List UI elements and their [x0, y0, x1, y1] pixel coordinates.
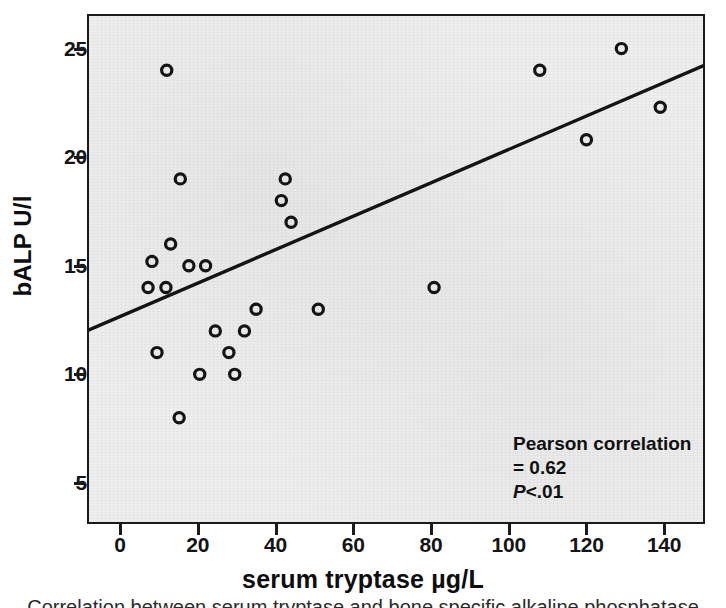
data-point	[230, 369, 240, 379]
statistics-annotation: Pearson correlation = 0.62 P<.01	[513, 432, 703, 503]
y-tick-mark	[74, 265, 85, 268]
p-value-number: <.01	[526, 481, 564, 502]
data-point	[581, 135, 591, 145]
x-axis-title: serum tryptase µg/L	[0, 565, 726, 594]
data-point	[655, 102, 665, 112]
data-point	[152, 348, 162, 358]
data-point	[429, 282, 439, 292]
x-tick-label: 140	[629, 534, 699, 555]
y-tick-mark	[74, 482, 85, 485]
plot-panel: Pearson correlation = 0.62 P<.01	[87, 14, 705, 524]
data-point	[147, 256, 157, 266]
data-point	[280, 174, 290, 184]
x-tick-label: 0	[85, 534, 155, 555]
p-symbol: P	[513, 481, 526, 502]
data-points	[143, 43, 665, 422]
x-tick-label: 40	[241, 534, 311, 555]
p-value-text: P<.01	[513, 480, 703, 504]
fit-line	[89, 66, 703, 330]
data-point	[251, 304, 261, 314]
y-axis-title: bALP U/l	[9, 161, 37, 331]
data-point	[184, 261, 194, 271]
data-point	[143, 282, 153, 292]
data-point	[166, 239, 176, 249]
data-point	[174, 413, 184, 423]
regression-line	[89, 66, 703, 330]
data-point	[161, 282, 171, 292]
data-point	[239, 326, 249, 336]
data-point	[313, 304, 323, 314]
data-point	[162, 65, 172, 75]
y-tick-mark	[74, 48, 85, 51]
x-tick-label: 120	[551, 534, 621, 555]
data-point	[616, 43, 626, 53]
data-point	[535, 65, 545, 75]
y-tick-mark	[74, 156, 85, 159]
x-tick-label: 100	[474, 534, 544, 555]
figure-caption-sliver: Correlation between serum tryptase and b…	[0, 596, 726, 608]
data-point	[210, 326, 220, 336]
data-point	[200, 261, 210, 271]
data-point	[195, 369, 205, 379]
scatter-plot-figure: Pearson correlation = 0.62 P<.01 5101520…	[0, 0, 726, 608]
data-point	[276, 195, 286, 205]
data-point	[224, 348, 234, 358]
data-point	[286, 217, 296, 227]
data-point	[175, 174, 185, 184]
x-tick-label: 80	[396, 534, 466, 555]
x-tick-label: 20	[163, 534, 233, 555]
y-tick-mark	[74, 373, 85, 376]
x-tick-label: 60	[318, 534, 388, 555]
pearson-correlation-text: Pearson correlation = 0.62	[513, 433, 691, 478]
